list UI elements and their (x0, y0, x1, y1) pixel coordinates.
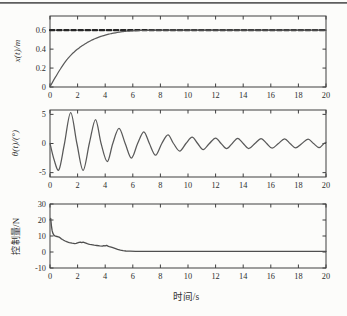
x-tick-label: 10 (184, 91, 192, 100)
axis-frame (50, 16, 326, 87)
y-tick-label: 5 (42, 110, 46, 119)
y-tick-label: 0.2 (36, 64, 46, 73)
y-tick-label: 20 (38, 216, 46, 225)
x-tick-label: 8 (158, 272, 162, 281)
y-tick-label: -5 (39, 168, 46, 177)
x-tick-label: 20 (322, 181, 330, 190)
x-tick-label: 8 (158, 91, 162, 100)
y-tick-label: 0.6 (36, 26, 46, 35)
x-tick-label: 4 (103, 91, 108, 100)
y-tick-label: -10 (35, 264, 46, 273)
ylabel-cart-position: x(t)/m (12, 40, 22, 63)
x-tick-label: 8 (158, 181, 162, 190)
y-tick-label: 30 (38, 200, 46, 209)
x-tick-label: 12 (211, 91, 219, 100)
x-tick-label: 6 (131, 91, 135, 100)
x-tick-label: 16 (267, 181, 275, 190)
y-tick-label: 0.4 (36, 45, 47, 54)
x-tick-label: 18 (294, 91, 302, 100)
subplot-2: 02468101214161820-505 (39, 110, 330, 190)
x-tick-label: 4 (103, 181, 108, 190)
x-tick-label: 0 (48, 91, 52, 100)
axis-frame (50, 110, 326, 177)
x-tick-label: 0 (48, 272, 52, 281)
x-tick-label: 18 (294, 181, 302, 190)
x-tick-label: 2 (76, 272, 80, 281)
subplot-3: 02468101214161820-100102030 (35, 200, 330, 281)
x-tick-label: 2 (76, 91, 80, 100)
x-tick-label: 16 (267, 91, 275, 100)
figure-page: 0246810121416182000.20.40.60246810121416… (0, 0, 347, 316)
ylabel-control-force: 控制量/N (9, 218, 22, 255)
x-tick-label: 14 (239, 181, 248, 190)
y-tick-label: 10 (38, 232, 46, 241)
xlabel-time: 时间/s (173, 289, 199, 303)
x-tick-label: 12 (211, 272, 219, 281)
y-tick-label: 0 (42, 83, 46, 92)
series-pendulum-angle-response (50, 113, 326, 171)
x-tick-label: 6 (131, 272, 135, 281)
x-tick-label: 20 (322, 91, 330, 100)
y-tick-label: 0 (42, 139, 46, 148)
x-tick-label: 4 (103, 272, 108, 281)
series-cart-position-response (50, 30, 326, 87)
x-tick-label: 2 (76, 181, 80, 190)
x-tick-label: 10 (184, 181, 192, 190)
x-tick-label: 12 (211, 181, 219, 190)
x-tick-label: 6 (131, 181, 135, 190)
x-tick-label: 14 (239, 272, 248, 281)
chart-canvas: 0246810121416182000.20.40.60246810121416… (0, 0, 347, 316)
x-tick-label: 16 (267, 272, 275, 281)
x-tick-label: 10 (184, 272, 192, 281)
x-tick-label: 14 (239, 91, 248, 100)
ylabel-pendulum-angle: θ(t)/(°) (10, 130, 20, 157)
y-tick-label: 0 (42, 248, 46, 257)
x-tick-label: 20 (322, 272, 330, 281)
series-control-force (50, 218, 326, 251)
subplot-1: 0246810121416182000.20.40.6 (36, 16, 331, 100)
x-tick-label: 18 (294, 272, 302, 281)
x-tick-label: 0 (48, 181, 52, 190)
pendulum-results-figure: 0246810121416182000.20.40.60246810121416… (0, 0, 347, 316)
axis-frame (50, 204, 326, 268)
